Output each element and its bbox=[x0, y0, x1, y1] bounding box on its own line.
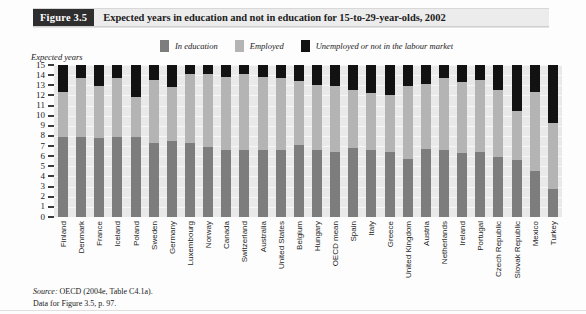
source-note-line2: Data for Figure 3.5, p. 97. bbox=[33, 299, 116, 308]
x-axis-label: Norway bbox=[204, 221, 213, 248]
bar-canada[interactable] bbox=[221, 65, 231, 217]
bar-segment-in-education bbox=[149, 143, 159, 217]
bar-segment-unemployed bbox=[221, 65, 231, 77]
x-axis-label: Switzerland bbox=[240, 221, 249, 262]
bar-finland[interactable] bbox=[58, 65, 68, 217]
bar-segment-unemployed bbox=[366, 65, 376, 93]
legend-label: Employed bbox=[250, 41, 284, 51]
bar-slot bbox=[362, 65, 380, 217]
bottom-divider bbox=[0, 310, 586, 311]
bar-segment-employed bbox=[112, 78, 122, 137]
x-label-slot: Portugal bbox=[471, 219, 489, 281]
header-divider bbox=[33, 27, 549, 28]
bar-australia[interactable] bbox=[258, 65, 268, 217]
bar-spain[interactable] bbox=[348, 65, 358, 217]
x-axis-label: Austria bbox=[421, 221, 430, 246]
legend-item-unemployed: Unemployed or not in the labour market bbox=[301, 40, 453, 52]
bar-slot bbox=[254, 65, 272, 217]
bar-slot bbox=[181, 65, 199, 217]
y-tick-label: 2 bbox=[41, 192, 46, 201]
bar-luxembourg[interactable] bbox=[185, 65, 195, 217]
bar-segment-in-education bbox=[221, 150, 231, 217]
bar-slot bbox=[199, 65, 217, 217]
bar-slot bbox=[235, 65, 253, 217]
x-axis-label: Australia bbox=[258, 221, 267, 252]
y-axis: 1514131211109876543210 bbox=[30, 65, 54, 217]
bar-slot bbox=[108, 65, 126, 217]
bar-segment-in-education bbox=[330, 152, 340, 217]
bar-czech-republic[interactable] bbox=[493, 65, 503, 217]
bar-segment-employed bbox=[403, 86, 413, 159]
bar-segment-employed bbox=[312, 85, 322, 150]
bar-segment-employed bbox=[512, 111, 522, 161]
bar-slot bbox=[217, 65, 235, 217]
bar-mexico[interactable] bbox=[530, 65, 540, 217]
bar-segment-employed bbox=[94, 86, 104, 138]
bar-segment-unemployed bbox=[94, 65, 104, 86]
bar-netherlands[interactable] bbox=[439, 65, 449, 217]
bar-turkey[interactable] bbox=[548, 65, 558, 217]
x-axis-labels: FinlandDenmarkFranceIcelandPolandSwedenG… bbox=[54, 219, 562, 281]
x-axis-label: Mexico bbox=[530, 221, 539, 246]
legend-swatch-icon bbox=[160, 40, 169, 52]
bar-denmark[interactable] bbox=[76, 65, 86, 217]
bar-hungary[interactable] bbox=[312, 65, 322, 217]
x-axis-label: United States bbox=[276, 221, 285, 269]
source-label: Source: bbox=[33, 287, 58, 296]
bar-slot bbox=[326, 65, 344, 217]
bar-greece[interactable] bbox=[385, 65, 395, 217]
plot-area bbox=[54, 65, 562, 217]
bar-norway[interactable] bbox=[203, 65, 213, 217]
bar-portugal[interactable] bbox=[475, 65, 485, 217]
bar-slot bbox=[435, 65, 453, 217]
x-label-slot: Poland bbox=[127, 219, 145, 281]
bar-slot bbox=[127, 65, 145, 217]
bar-ireland[interactable] bbox=[457, 65, 467, 217]
x-axis-label: Luxembourg bbox=[186, 221, 195, 265]
bar-segment-in-education bbox=[512, 160, 522, 217]
bar-switzerland[interactable] bbox=[239, 65, 249, 217]
bar-segment-employed bbox=[58, 92, 68, 137]
y-tick-label: 3 bbox=[41, 182, 46, 191]
bar-segment-employed bbox=[385, 95, 395, 152]
bar-france[interactable] bbox=[94, 65, 104, 217]
bar-segment-employed bbox=[131, 97, 141, 137]
bar-germany[interactable] bbox=[167, 65, 177, 217]
legend-item-employed: Employed bbox=[235, 40, 284, 52]
x-label-slot: United Kingdom bbox=[399, 219, 417, 281]
bar-segment-unemployed bbox=[167, 65, 177, 87]
bar-segment-employed bbox=[221, 77, 231, 150]
y-tick-label: 10 bbox=[36, 111, 45, 120]
figure-header: Figure 3.5 Expected years in education a… bbox=[33, 8, 549, 27]
bar-segment-unemployed bbox=[493, 65, 503, 90]
bar-oecd-mean[interactable] bbox=[330, 65, 340, 217]
bar-slot bbox=[471, 65, 489, 217]
bar-segment-employed bbox=[475, 80, 485, 152]
bar-segment-employed bbox=[530, 92, 540, 171]
legend-item-in_education: In education bbox=[160, 40, 218, 52]
bar-united-kingdom[interactable] bbox=[403, 65, 413, 217]
bar-segment-unemployed bbox=[475, 65, 485, 80]
source-note: Source: OECD (2004e, Table C4.1a). bbox=[33, 287, 153, 296]
legend-swatch-icon bbox=[235, 40, 244, 52]
bar-segment-unemployed bbox=[258, 65, 268, 77]
bar-italy[interactable] bbox=[366, 65, 376, 217]
bar-segment-unemployed bbox=[276, 65, 286, 78]
bar-segment-in-education bbox=[530, 171, 540, 217]
bar-slovak-republic[interactable] bbox=[512, 65, 522, 217]
bar-segment-employed bbox=[493, 90, 503, 157]
bar-segment-employed bbox=[239, 74, 249, 150]
bar-segment-in-education bbox=[348, 148, 358, 217]
bar-slot bbox=[508, 65, 526, 217]
bar-united-states[interactable] bbox=[276, 65, 286, 217]
bar-sweden[interactable] bbox=[149, 65, 159, 217]
y-tick-label: 8 bbox=[41, 131, 46, 140]
bar-segment-in-education bbox=[493, 157, 503, 217]
bar-segment-in-education bbox=[185, 143, 195, 217]
bar-segment-in-education bbox=[258, 150, 268, 217]
bar-belgium[interactable] bbox=[294, 65, 304, 217]
bar-poland[interactable] bbox=[131, 65, 141, 217]
bar-segment-unemployed bbox=[348, 65, 358, 90]
bar-iceland[interactable] bbox=[112, 65, 122, 217]
bar-austria[interactable] bbox=[421, 65, 431, 217]
